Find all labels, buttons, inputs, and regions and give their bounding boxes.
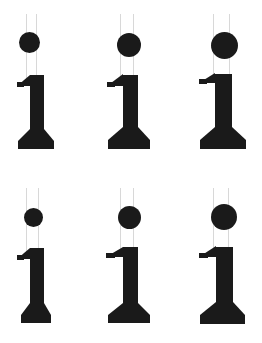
glyph-foot-bracket-left — [200, 127, 215, 140]
glyph-foot-bracket-right — [138, 303, 150, 315]
glyph-foot-bracket-right — [44, 129, 54, 141]
glyph-stem — [215, 74, 232, 147]
glyph-label: i — [87, 0, 88, 1]
glyph-foot-bracket-right — [138, 127, 150, 140]
glyph-flag-terminal — [106, 253, 115, 258]
glyph-stem — [30, 75, 44, 147]
glyph-tittle — [24, 208, 43, 227]
glyph-foot-bracket-right — [233, 302, 245, 315]
glyph-cell-r1c2: i — [87, 0, 174, 171]
glyph-label: i — [175, 0, 176, 1]
glyph-flag-terminal — [199, 79, 207, 84]
glyph-foot-bracket-right — [232, 127, 246, 140]
glyph-stem — [216, 247, 233, 322]
glyph-tittle — [117, 33, 141, 57]
glyph-foot-bracket-right — [44, 303, 51, 315]
glyph-tittle — [211, 204, 237, 230]
glyph-foot-bracket-left — [108, 127, 123, 140]
glyph-label: i — [175, 172, 176, 173]
glyph-tittle — [211, 32, 238, 59]
glyph-stem — [123, 75, 138, 147]
glyph-foot-bracket-left — [18, 129, 30, 141]
glyph-tittle — [19, 32, 40, 53]
glyph-tittle — [118, 206, 141, 229]
glyph-foot-bracket-left — [108, 303, 123, 315]
glyph-flag-terminal — [17, 82, 24, 87]
glyph-cell-r1c3: i — [175, 0, 262, 171]
glyph-cell-r2c1: i — [0, 172, 87, 343]
glyph-flag-terminal — [107, 82, 115, 87]
glyph-label: i — [0, 172, 1, 173]
glyph-flag-terminal — [199, 253, 208, 258]
glyph-label: i — [87, 172, 88, 173]
glyph-cell-r1c1: i — [0, 0, 87, 171]
glyph-flag-terminal — [17, 255, 24, 260]
glyph-cell-r2c3: i — [175, 172, 262, 343]
glyph-foot-bracket-left — [21, 303, 30, 315]
glyph-stem — [30, 248, 44, 322]
glyph-label: i — [0, 0, 1, 1]
specimen-grid: iiiiii — [0, 0, 262, 343]
glyph-cell-r2c2: i — [87, 172, 174, 343]
glyph-stem — [123, 247, 138, 322]
glyph-foot-bracket-left — [200, 302, 216, 315]
